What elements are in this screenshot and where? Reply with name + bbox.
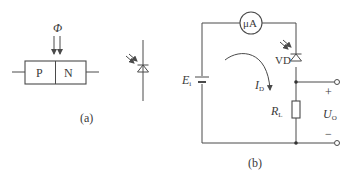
junction-node-top <box>294 80 298 84</box>
minus-sign: − <box>325 127 332 141</box>
plus-sign: + <box>325 85 332 99</box>
light-arrows-icon <box>54 36 60 54</box>
diode-label: VD <box>275 54 291 66</box>
photodiode-diagram: Φ P N (a) <box>0 0 349 177</box>
current-label: ID <box>254 78 264 93</box>
resistor-icon <box>292 101 300 118</box>
caption-a: (a) <box>80 111 93 125</box>
junction-node-bottom <box>294 141 298 145</box>
circuit-wires <box>202 23 334 143</box>
resistor-label: RL <box>270 104 283 119</box>
ammeter-label: μA <box>243 17 257 29</box>
caption-b: (b) <box>248 156 262 170</box>
flux-label: Φ <box>53 21 62 35</box>
figure-b: μA Ei ID VD RL <box>181 12 340 170</box>
p-region-label: P <box>36 66 43 80</box>
output-terminals-icon <box>335 80 340 146</box>
pn-junction-block-icon <box>12 61 99 84</box>
output-voltage-label: UO <box>323 107 337 122</box>
n-region-label: N <box>64 66 73 80</box>
battery-icon <box>195 77 209 82</box>
photodiode-symbol-icon <box>126 40 149 101</box>
source-label: Ei <box>181 73 191 88</box>
figure-a: Φ P N (a) <box>12 21 149 125</box>
